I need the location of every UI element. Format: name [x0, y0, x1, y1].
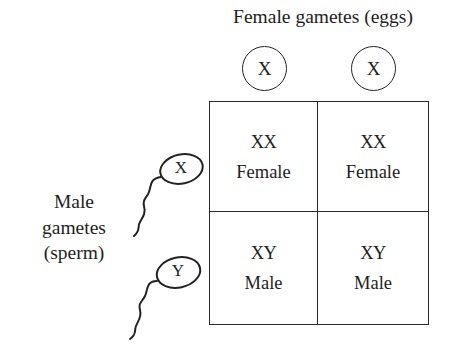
cell-genotype: XY [360, 238, 386, 268]
punnett-cell: XX Female [318, 102, 428, 212]
cell-genotype: XX [251, 127, 277, 157]
punnett-cell: XX Female [210, 102, 318, 212]
cell-genotype: XY [251, 238, 277, 268]
cell-sex: Female [346, 157, 400, 187]
cell-genotype: XX [360, 127, 386, 157]
sperm-x-label: X [166, 158, 196, 178]
punnett-cell: XY Male [210, 212, 318, 324]
cell-sex: Male [354, 268, 392, 298]
punnett-cell: XY Male [318, 212, 428, 324]
sperm-y-label: Y [163, 261, 193, 281]
cell-sex: Female [236, 157, 290, 187]
punnett-square-grid: XX Female XX Female XY Male XY Male [209, 101, 429, 325]
cell-sex: Male [244, 268, 282, 298]
